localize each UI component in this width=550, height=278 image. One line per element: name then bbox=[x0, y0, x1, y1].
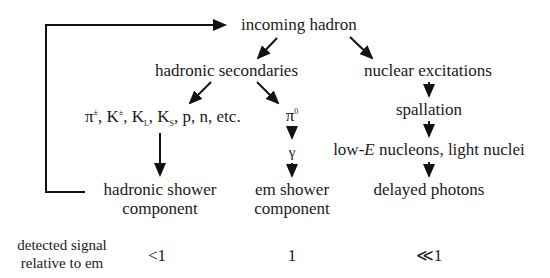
arrow-to-hadronic-secondaries bbox=[258, 38, 277, 58]
node-spallation: spallation bbox=[396, 100, 462, 119]
node-charged-hadrons: π±, K±, KL, KS, p, n, etc. bbox=[85, 107, 241, 126]
node-hadronic-secondaries: hadronic secondaries bbox=[155, 61, 298, 80]
signal-nuclear: ≪1 bbox=[416, 246, 443, 265]
node-delayed-photons: delayed photons bbox=[374, 180, 485, 199]
node-hadronic-shower: hadronic shower component bbox=[104, 180, 217, 218]
signal-row-label: detected signal relative to em bbox=[17, 236, 107, 272]
arrow-to-pi0 bbox=[257, 82, 278, 103]
node-pi0: π0 bbox=[286, 106, 299, 125]
arrow-to-charged-hadrons bbox=[190, 82, 211, 103]
signal-em: 1 bbox=[288, 246, 297, 265]
node-incoming-hadron: incoming hadron bbox=[241, 15, 357, 34]
signal-hadronic: <1 bbox=[148, 246, 166, 265]
node-low-e-nucleons: low-E nucleons, light nuclei bbox=[333, 140, 525, 159]
arrow-to-nuclear-excitations bbox=[350, 37, 372, 58]
node-nuclear-excitations: nuclear excitations bbox=[364, 61, 492, 80]
node-em-shower: em shower component bbox=[254, 180, 330, 218]
node-gamma: γ bbox=[289, 143, 296, 162]
